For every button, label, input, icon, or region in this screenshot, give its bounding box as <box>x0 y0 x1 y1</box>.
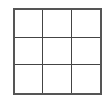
cell-1-0[interactable] <box>15 38 43 66</box>
cell-1-2[interactable] <box>72 38 100 66</box>
cell-2-1[interactable] <box>43 65 71 93</box>
cell-0-1[interactable] <box>43 10 71 38</box>
cell-2-2[interactable] <box>72 65 100 93</box>
cell-2-0[interactable] <box>15 65 43 93</box>
cell-0-2[interactable] <box>72 10 100 38</box>
cell-0-0[interactable] <box>15 10 43 38</box>
tic-tac-toe-board <box>13 8 102 95</box>
cell-1-1[interactable] <box>43 38 71 66</box>
